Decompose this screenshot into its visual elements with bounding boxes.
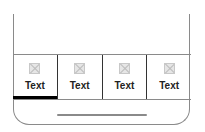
image-placeholder-icon: [119, 63, 130, 74]
tab-label: Text: [25, 80, 45, 91]
active-tab-indicator: [13, 96, 57, 99]
tab-3[interactable]: Text: [103, 55, 148, 99]
tab-label: Text: [159, 80, 179, 91]
tab-4[interactable]: Text: [147, 55, 191, 99]
image-placeholder-icon: [164, 63, 175, 74]
tab-label: Text: [70, 80, 90, 91]
home-indicator[interactable]: [57, 114, 147, 116]
bottom-tab-bar: Text Text Text Text: [13, 54, 191, 100]
tab-label: Text: [114, 80, 134, 91]
image-placeholder-icon: [29, 63, 40, 74]
image-placeholder-icon: [74, 63, 85, 74]
tab-1[interactable]: Text: [13, 55, 58, 99]
tab-2[interactable]: Text: [58, 55, 103, 99]
